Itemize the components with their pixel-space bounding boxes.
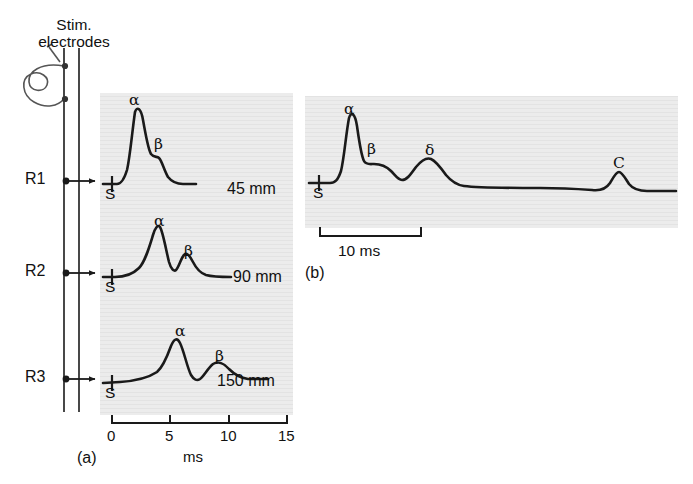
axis-tick-15: 15 [278, 428, 295, 445]
axis-tick-10: 10 [220, 428, 237, 445]
peak-label-alpha-panel-b: α [344, 101, 354, 118]
stim-label-r2: S [105, 278, 115, 295]
electrode-label-r1: R1 [25, 170, 45, 188]
axis-tick-0: 0 [107, 428, 115, 445]
peak-label-alpha-150mm: α [175, 323, 185, 340]
panel-a-caption: (a) [77, 449, 97, 467]
electrode-label-r3: R3 [25, 368, 45, 386]
distance-label-150mm: 150 mm [217, 372, 275, 390]
stimulating-electrodes [24, 47, 64, 106]
panel-b-scale-bar [320, 228, 421, 236]
peak-label-beta-panel-b: β [367, 141, 376, 158]
stim-electrodes-label: Stim. electrodes [21, 16, 127, 51]
stim-label-r3: S [105, 384, 115, 401]
axis-tick-5: 5 [165, 428, 173, 445]
stim-electrodes-line1: Stim. [56, 16, 91, 33]
peak-label-alpha-45mm: α [129, 92, 139, 109]
stim-label-r1: S [105, 185, 115, 202]
nerve-trunk [64, 48, 79, 412]
stim-label-panel-b: S [313, 184, 323, 201]
distance-label-45mm: 45 mm [227, 180, 276, 198]
panel-a-backgrounds [100, 93, 293, 415]
distance-label-90mm: 90 mm [233, 268, 282, 286]
peak-label-beta-90mm: β [184, 243, 193, 260]
figure-compound-action-potential: Stim. electrodes R1 R2 R3 S S S α β α β … [0, 0, 693, 484]
axis-label-ms: ms [183, 449, 203, 466]
electrode-contact-dots [62, 63, 68, 102]
peak-label-c-panel-b: C [613, 155, 625, 172]
peak-label-delta-panel-b: δ [425, 142, 434, 159]
electrode-label-r2: R2 [25, 262, 45, 280]
panel-b-caption: (b) [305, 264, 325, 282]
peak-label-alpha-90mm: α [154, 213, 164, 230]
peak-label-beta-45mm: β [154, 136, 163, 153]
peak-label-beta-150mm: β [215, 348, 224, 365]
panel-a-axis [112, 416, 287, 423]
panel-b-scale-bar-label: 10 ms [338, 242, 380, 259]
stim-electrodes-line2: electrodes [38, 33, 110, 50]
